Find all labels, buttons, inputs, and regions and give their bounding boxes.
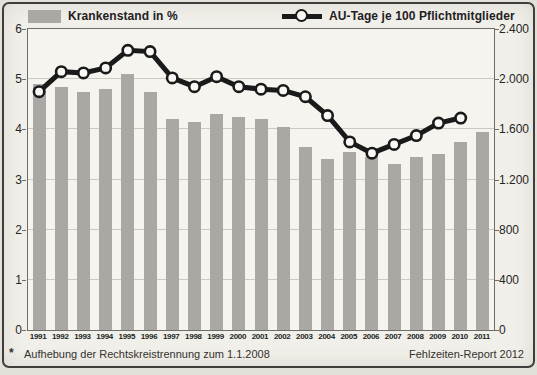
right-axis-tick-label: 800	[499, 223, 519, 237]
left-axis-tick	[22, 129, 26, 130]
right-axis-tick-label: 1.200	[499, 173, 529, 187]
left-axis-tick-label: 1	[15, 273, 22, 287]
data-point-marker	[56, 66, 66, 76]
circle-marker	[295, 9, 308, 22]
left-axis-tick-label: 5	[15, 72, 22, 86]
plot-area	[27, 28, 495, 331]
right-axis-tick-label: 0	[499, 323, 506, 337]
right-axis: 04008001.2001.6002.0002.400	[499, 28, 537, 331]
right-axis-tick	[495, 180, 499, 181]
line-marker-icon	[282, 9, 322, 23]
data-point-marker	[234, 81, 244, 91]
right-axis-tick-label: 400	[499, 273, 519, 287]
left-axis-tick	[22, 79, 26, 80]
data-point-marker	[189, 81, 199, 91]
legend-item-au-tage: AU-Tage je 100 Pflichtmitglieder	[282, 9, 515, 23]
right-axis-tick-label: 2.400	[499, 22, 529, 36]
left-axis-tick	[22, 230, 26, 231]
data-point-marker	[123, 45, 133, 55]
data-point-marker	[367, 148, 377, 158]
data-point-marker	[145, 46, 155, 56]
legend-label-krankenstand: Krankenstand in %	[68, 9, 178, 23]
left-axis-tick-label: 2	[15, 223, 22, 237]
footnote-asterisk: *	[9, 346, 14, 360]
data-point-marker	[167, 73, 177, 83]
data-point-marker	[278, 85, 288, 95]
data-point-marker	[78, 68, 88, 78]
data-point-marker	[100, 63, 110, 73]
data-point-marker	[34, 87, 44, 97]
left-axis-tick	[22, 330, 26, 331]
right-axis-tick	[495, 230, 499, 231]
right-axis-tick	[495, 29, 499, 30]
left-axis: 0123456	[4, 28, 22, 331]
data-point-marker	[211, 71, 221, 81]
left-axis-tick-label: 0	[15, 323, 22, 337]
right-axis-tick-label: 1.600	[499, 122, 529, 136]
x-axis-labels: 1991199219931994199519961997199819992000…	[27, 332, 493, 344]
right-axis-tick	[495, 280, 499, 281]
data-point-marker	[322, 110, 332, 120]
left-axis-tick	[22, 29, 26, 30]
data-point-marker	[345, 137, 355, 147]
x-label-2011: 2011	[469, 332, 495, 341]
data-point-marker	[300, 92, 310, 102]
data-point-marker	[433, 118, 443, 128]
left-axis-tick-label: 4	[15, 122, 22, 136]
data-point-marker	[456, 113, 466, 123]
figure-frame: Krankenstand in % AU-Tage je 100 Pflicht…	[2, 2, 535, 368]
bar-swatch-icon	[28, 10, 61, 23]
right-axis-tick-label: 2.000	[499, 72, 529, 86]
left-axis-tick-label: 6	[15, 22, 22, 36]
right-axis-tick	[495, 330, 499, 331]
data-point-marker	[389, 139, 399, 149]
data-point-marker	[411, 130, 421, 140]
left-axis-tick	[22, 280, 26, 281]
right-axis-tick	[495, 129, 499, 130]
source-label: Fehlzeiten-Report 2012	[409, 348, 524, 360]
legend-label-au-tage: AU-Tage je 100 Pflichtmitglieder	[329, 9, 515, 23]
footnote-text: Aufhebung der Rechtskreistrennung zum 1.…	[24, 348, 270, 360]
data-point-marker	[256, 84, 266, 94]
left-axis-tick	[22, 180, 26, 181]
left-axis-tick-label: 3	[15, 173, 22, 187]
au-tage-line	[28, 29, 494, 330]
right-axis-tick	[495, 79, 499, 80]
legend-item-krankenstand: Krankenstand in %	[28, 9, 178, 23]
